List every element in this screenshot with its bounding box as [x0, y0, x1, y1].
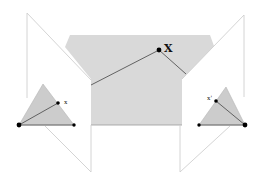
label-x-prime: x' — [207, 94, 212, 101]
left-camera: x — [17, 84, 76, 127]
label-x: x — [64, 98, 68, 105]
epipolar-plane — [65, 35, 214, 125]
right-epipole — [197, 123, 200, 126]
right-camera-center — [243, 123, 248, 128]
right-image-point-x-prime — [214, 99, 218, 103]
right-camera: x' — [197, 87, 247, 127]
epipolar-diagram: X x x' — [0, 0, 260, 181]
left-image-point-x — [56, 101, 60, 105]
label-X: X — [164, 42, 173, 55]
world-point-X — [157, 48, 162, 53]
left-epipole — [72, 123, 75, 126]
left-camera-center — [17, 123, 22, 128]
